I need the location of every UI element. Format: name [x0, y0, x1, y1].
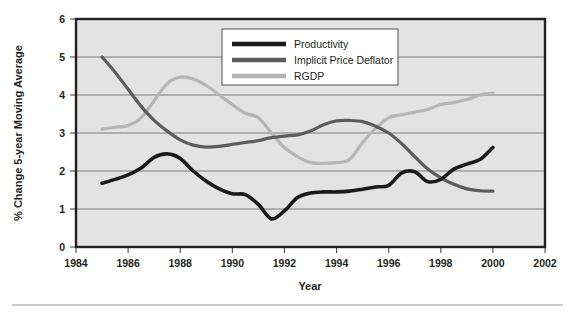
chart-figure: 0123456 19841986198819901992199419961998… — [0, 0, 575, 313]
y-tick-label: 0 — [59, 241, 65, 253]
line-chart: 0123456 19841986198819901992199419961998… — [0, 0, 575, 313]
legend-label: RGDP — [294, 70, 324, 82]
x-tick-label: 1990 — [221, 257, 245, 269]
y-tick-label: 3 — [59, 127, 65, 139]
y-tick-label: 2 — [59, 165, 65, 177]
y-tick-label: 5 — [59, 51, 65, 63]
chart-legend: ProductivityImplicit Price DeflatorRGDP — [222, 29, 398, 85]
x-axis-tick-labels: 1984198619881990199219941996199820002002 — [64, 257, 557, 269]
x-tick-label: 1986 — [116, 257, 140, 269]
x-tick-label: 1996 — [377, 257, 401, 269]
x-tick-label: 1998 — [429, 257, 453, 269]
x-tick-label: 1988 — [169, 257, 193, 269]
x-tick-label: 1992 — [273, 257, 297, 269]
x-axis-title: Year — [298, 280, 322, 292]
y-tick-label: 6 — [59, 13, 65, 25]
y-tick-label: 4 — [59, 89, 65, 101]
y-axis-tick-labels: 0123456 — [59, 13, 65, 253]
x-tick-label: 1994 — [325, 257, 349, 269]
y-axis-title: % Change 5-year Moving Average — [12, 45, 24, 221]
x-tick-label: 1984 — [64, 257, 88, 269]
x-tick-label: 2002 — [533, 257, 557, 269]
legend-label: Implicit Price Deflator — [294, 54, 394, 66]
x-tick-label: 2000 — [481, 257, 505, 269]
y-tick-label: 1 — [59, 203, 65, 215]
legend-label: Productivity — [294, 38, 349, 50]
